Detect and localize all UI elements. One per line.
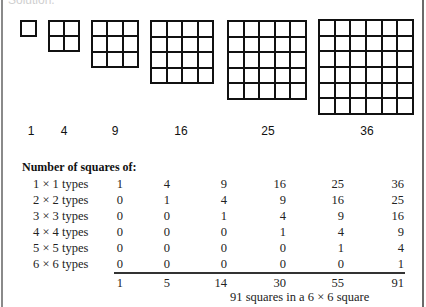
table-cell: 9 bbox=[374, 225, 404, 240]
grid-cell bbox=[21, 21, 36, 36]
grid-cell bbox=[244, 52, 260, 68]
grid-cell bbox=[259, 83, 275, 99]
grid-cell bbox=[290, 83, 306, 99]
total-cell: 14 bbox=[197, 276, 227, 291]
table-cell: 25 bbox=[374, 193, 404, 208]
table-cell: 0 bbox=[93, 193, 123, 208]
row-label: 1 × 1 types bbox=[33, 177, 88, 192]
grid-cell bbox=[167, 68, 183, 84]
square-count-label: 9 bbox=[112, 124, 119, 138]
grid-cell bbox=[259, 21, 275, 37]
grid-cell bbox=[182, 21, 198, 37]
grid-cell bbox=[397, 98, 413, 114]
grid-cell bbox=[397, 20, 413, 36]
table-cell: 25 bbox=[314, 177, 344, 192]
grid-cell bbox=[397, 67, 413, 83]
table-cell: 1 bbox=[374, 257, 404, 272]
grid-cell bbox=[198, 21, 214, 37]
table-cell: 0 bbox=[197, 225, 227, 240]
grid-cell bbox=[107, 52, 122, 67]
grid-cell bbox=[228, 21, 244, 37]
grid-cell bbox=[259, 68, 275, 84]
grid-cell bbox=[198, 52, 214, 68]
grid-cell bbox=[382, 67, 398, 83]
table-cell: 1 bbox=[197, 209, 227, 224]
table-cell: 9 bbox=[256, 193, 286, 208]
left-border bbox=[1, 0, 3, 307]
grid-cell bbox=[335, 67, 351, 83]
grid-cell bbox=[182, 37, 198, 53]
row-label: 5 × 5 types bbox=[33, 241, 88, 256]
table-cell: 16 bbox=[256, 177, 286, 192]
table-cell: 0 bbox=[140, 257, 170, 272]
grid-cell bbox=[182, 68, 198, 84]
square-grid-5x5 bbox=[227, 20, 307, 100]
grid-cell bbox=[366, 98, 382, 114]
grid-cell bbox=[382, 20, 398, 36]
table-cell: 0 bbox=[93, 225, 123, 240]
grid-cell bbox=[366, 67, 382, 83]
grid-cell bbox=[290, 21, 306, 37]
row-label: 6 × 6 types bbox=[33, 257, 88, 272]
grid-cell bbox=[366, 20, 382, 36]
square-count-label: 1 bbox=[28, 124, 35, 138]
grid-cell bbox=[259, 52, 275, 68]
grid-cell bbox=[397, 83, 413, 99]
table-cell: 9 bbox=[197, 177, 227, 192]
grid-cell bbox=[151, 52, 167, 68]
grid-cell bbox=[397, 36, 413, 52]
table-cell: 4 bbox=[314, 225, 344, 240]
grid-cell bbox=[64, 21, 79, 36]
grid-cell bbox=[244, 37, 260, 53]
grid-cell bbox=[382, 36, 398, 52]
grid-cell bbox=[319, 36, 335, 52]
table-cell: 16 bbox=[374, 209, 404, 224]
grid-cell bbox=[244, 68, 260, 84]
total-cell: 91 bbox=[374, 276, 404, 291]
table-cell: 0 bbox=[140, 209, 170, 224]
square-grid-4x4 bbox=[150, 20, 214, 84]
grid-cell bbox=[382, 83, 398, 99]
grid-cell bbox=[275, 83, 291, 99]
grid-cell bbox=[259, 37, 275, 53]
table-cell: 0 bbox=[314, 257, 344, 272]
table-cell: 0 bbox=[93, 257, 123, 272]
table-title: Number of squares of: bbox=[22, 160, 137, 175]
square-grid-2x2 bbox=[48, 20, 80, 52]
grid-cell bbox=[92, 52, 107, 67]
grid-cell bbox=[335, 98, 351, 114]
grid-cell bbox=[350, 36, 366, 52]
table-cell: 1 bbox=[256, 225, 286, 240]
grid-cell bbox=[123, 36, 138, 51]
grid-cell bbox=[151, 21, 167, 37]
table-cell: 1 bbox=[140, 193, 170, 208]
table-cell: 0 bbox=[197, 257, 227, 272]
grid-cell bbox=[275, 37, 291, 53]
table-cell: 0 bbox=[93, 209, 123, 224]
grid-cell bbox=[319, 51, 335, 67]
right-border bbox=[422, 0, 424, 307]
table-cell: 0 bbox=[256, 241, 286, 256]
grid-cell bbox=[244, 83, 260, 99]
grid-cell bbox=[92, 21, 107, 36]
grid-cell bbox=[107, 36, 122, 51]
grid-cell bbox=[151, 37, 167, 53]
grid-cell bbox=[228, 52, 244, 68]
total-cell: 55 bbox=[314, 276, 344, 291]
grid-cell bbox=[107, 21, 122, 36]
grid-cell bbox=[151, 68, 167, 84]
grid-cell bbox=[350, 83, 366, 99]
grid-cell bbox=[319, 98, 335, 114]
grid-cell bbox=[275, 21, 291, 37]
grid-cell bbox=[123, 21, 138, 36]
grid-cell bbox=[366, 83, 382, 99]
grid-cell bbox=[167, 52, 183, 68]
grid-cell bbox=[228, 83, 244, 99]
total-cell: 5 bbox=[140, 276, 170, 291]
table-caption: 91 squares in a 6 × 6 square bbox=[230, 290, 369, 305]
total-cell: 1 bbox=[93, 276, 123, 291]
grid-cell bbox=[366, 36, 382, 52]
grid-cell bbox=[335, 83, 351, 99]
grid-cell bbox=[335, 36, 351, 52]
grid-cell bbox=[290, 52, 306, 68]
